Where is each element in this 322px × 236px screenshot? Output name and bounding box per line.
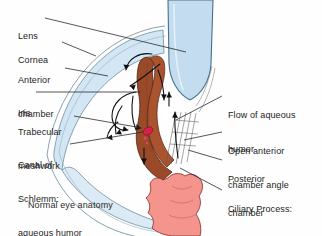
ciliary-process-shape <box>146 174 203 236</box>
leader-posterior-chamber <box>188 150 222 160</box>
label-ciliary-process: Ciliary Process: aqueous humor is formed… <box>228 182 292 236</box>
label-flow-of-aqueous-humor-line-0: Flow of aqueous <box>228 110 296 121</box>
leader-flow-of-aqueous-humor <box>176 96 222 120</box>
lens-shape <box>168 0 213 100</box>
leader-cornea <box>62 42 96 56</box>
figure-caption: Normal eye anatomy <box>28 200 113 211</box>
label-anterior-chamber-line-0: Anterior <box>18 75 54 86</box>
label-canal-of-schlemm: Canal of Schlemm: aqueous humor exits he… <box>18 138 82 236</box>
label-trabecular-meshwork-line-0: Trabecular <box>18 127 62 138</box>
leader-lens <box>45 18 186 52</box>
leader-trabecular-meshwork <box>74 116 142 128</box>
label-canal-of-schlemm-line-0: Canal of <box>18 160 82 171</box>
label-canal-of-schlemm-line-2: aqueous humor <box>18 228 82 236</box>
eye-anatomy-figure: Lens Cornea Anterior chamber Iris Trabec… <box>0 0 322 236</box>
label-ciliary-process-line-0: Ciliary Process: <box>228 204 292 215</box>
